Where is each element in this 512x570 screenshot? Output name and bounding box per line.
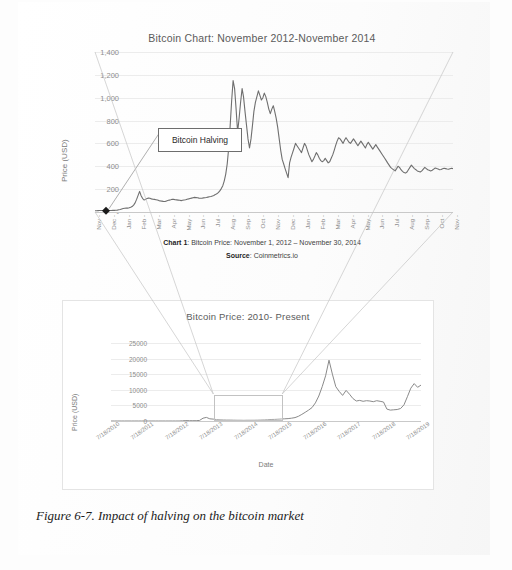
chart-top-plot-area: -2004006008001,0001,2001,400 Nov -Dec -J…: [95, 52, 453, 212]
chart-bottom-plot-area: 0500010000150002000025000 7/18/20107/18/…: [111, 343, 421, 421]
x-axis-tick: Dec -: [289, 215, 296, 230]
x-axis-tick: 7/18/2018: [371, 421, 396, 441]
x-axis-tick: Sep -: [244, 215, 251, 230]
zoom-highlight-rect: [214, 395, 283, 421]
chart-top-caption-text: : Bitcoin Price: November 1, 2012 – Nove…: [187, 239, 361, 246]
x-axis-tick: Jul -: [214, 215, 221, 227]
x-axis-tick: Nov -: [274, 215, 281, 230]
chart-bottom-bitcoin-2010-present: Bitcoin Price: 2010- Present Price (USD)…: [62, 300, 434, 490]
x-axis-tick: Apr -: [170, 215, 177, 228]
chart-top-source-label: Source: [226, 252, 250, 259]
x-axis-tick: Feb -: [319, 215, 326, 229]
chart-top-caption-line2: Source: Coinmetrics.io: [62, 249, 462, 262]
x-axis-tick: Jul -: [393, 215, 400, 227]
chart-top-caption-line1: Chart 1: Bitcoin Price: November 1, 2012…: [62, 236, 462, 249]
x-axis-tick: Sep -: [423, 215, 430, 230]
bitcoin-halving-annotation-label: Bitcoin Halving: [172, 135, 228, 145]
chart-top-halving-marker-group: [95, 52, 453, 212]
gridline: [95, 212, 453, 213]
x-axis-tick: Feb -: [140, 215, 147, 229]
bitcoin-halving-annotation: Bitcoin Halving: [158, 128, 242, 152]
x-axis-tick: 7/18/2012: [164, 421, 189, 441]
x-axis-tick: Mar -: [155, 215, 162, 229]
x-axis-tick: Jan -: [304, 215, 311, 229]
x-axis-tick: Dec -: [110, 215, 117, 230]
x-axis-tick: Nov -: [95, 215, 102, 230]
chart-bottom-ylabel: Price (USD): [71, 394, 78, 431]
x-axis-tick: Jan -: [125, 215, 132, 229]
x-axis-tick: May -: [185, 215, 192, 230]
x-axis-tick: 7/18/2015: [267, 421, 292, 441]
chart-bottom-xlabel: Date: [111, 461, 421, 468]
x-axis-tick: May -: [364, 215, 371, 230]
x-axis-tick: Oct -: [438, 215, 445, 228]
document-page: Bitcoin Chart: November 2012-November 20…: [0, 0, 512, 570]
x-axis-tick: Oct -: [259, 215, 266, 228]
x-axis-tick: 7/18/2017: [336, 421, 361, 441]
x-axis-tick: Nov -: [453, 215, 460, 230]
x-axis-tick: Jun -: [199, 215, 206, 229]
chart-top-ylabel: Price (USD): [60, 139, 69, 182]
x-axis-tick: 7/18/2019: [405, 421, 430, 441]
x-axis-tick: 7/18/2016: [302, 421, 327, 441]
figure-caption: Figure 6-7. Impact of halving on the bit…: [36, 508, 456, 524]
x-axis-tick: Jun -: [378, 215, 385, 229]
x-axis-tick: Aug -: [229, 215, 236, 230]
chart-top-bitcoin-2012-2014: Bitcoin Chart: November 2012-November 20…: [62, 30, 462, 235]
x-axis-tick: Mar -: [334, 215, 341, 229]
chart-top-caption: Chart 1: Bitcoin Price: November 1, 2012…: [62, 236, 462, 263]
chart-top-source-text: : Coinmetrics.io: [250, 252, 298, 259]
x-axis-tick: Aug -: [408, 215, 415, 230]
gridline: [111, 421, 421, 422]
chart-top-caption-label: Chart 1: [163, 239, 187, 246]
x-axis-tick: 7/18/2014: [233, 421, 258, 441]
chart-bottom-title: Bitcoin Price: 2010- Present: [63, 311, 433, 322]
chart-top-title: Bitcoin Chart: November 2012-November 20…: [62, 32, 462, 44]
x-axis-tick: Apr -: [349, 215, 356, 228]
x-axis-tick: 7/18/2013: [199, 421, 224, 441]
